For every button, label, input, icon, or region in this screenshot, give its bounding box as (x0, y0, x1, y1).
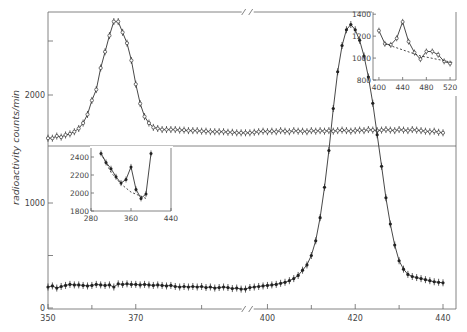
inset-x-tick-label: 480 (419, 83, 434, 92)
inset-y-tick-label: 1000 (352, 54, 371, 63)
y-tick-label: 1000 (25, 199, 45, 208)
inset-y-tick-label: 2400 (70, 153, 89, 162)
y-tick-label: 0 (40, 304, 45, 313)
inset-y-tick-label: 1200 (352, 32, 371, 41)
inset-y-tick-label: 2200 (70, 171, 89, 180)
chart: 350370400420440010002000 280360440180020… (0, 0, 467, 332)
inset-x-tick-label: 360 (124, 214, 139, 223)
x-tick-label: 350 (40, 314, 55, 323)
inset-y-tick-label: 1400 (352, 10, 371, 19)
x-tick-label: 440 (435, 314, 450, 323)
x-tick-label: 420 (348, 314, 363, 323)
x-tick-label: 370 (128, 314, 143, 323)
x-tick-label: 400 (260, 314, 275, 323)
inset-y-tick-label: 1800 (70, 207, 89, 216)
inset-x-tick-label: 440 (164, 214, 179, 223)
y-tick-label: 2000 (25, 91, 45, 100)
inset-right: 400440480520800100012001400 (352, 10, 458, 96)
y-axis-label: radioactivity counts/min (10, 90, 21, 205)
inset-x-tick-label: 520 (443, 83, 458, 92)
inset-y-tick-label: 2000 (70, 189, 89, 198)
inset-x-tick-label: 440 (395, 83, 410, 92)
inset-left: 2803604401800200022002400 (70, 146, 178, 227)
inset-x-tick-label: 400 (372, 83, 387, 92)
inset-y-tick-label: 800 (357, 76, 372, 85)
